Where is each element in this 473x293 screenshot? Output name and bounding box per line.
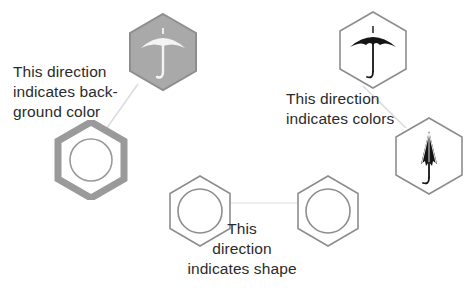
glyph-hex-white-fill-black-umbrella — [336, 10, 410, 90]
glyph-hex-white-fill-gray-ring — [54, 120, 128, 200]
caption-shape: This direction indicates shape — [168, 219, 316, 279]
caption-background-color: This direction indicates back- ground co… — [13, 62, 141, 122]
caption-colors: This direction indicates colors — [286, 89, 426, 129]
circle-outline-icon — [70, 139, 112, 181]
figure-canvas: This direction indicates back- ground co… — [0, 0, 473, 293]
